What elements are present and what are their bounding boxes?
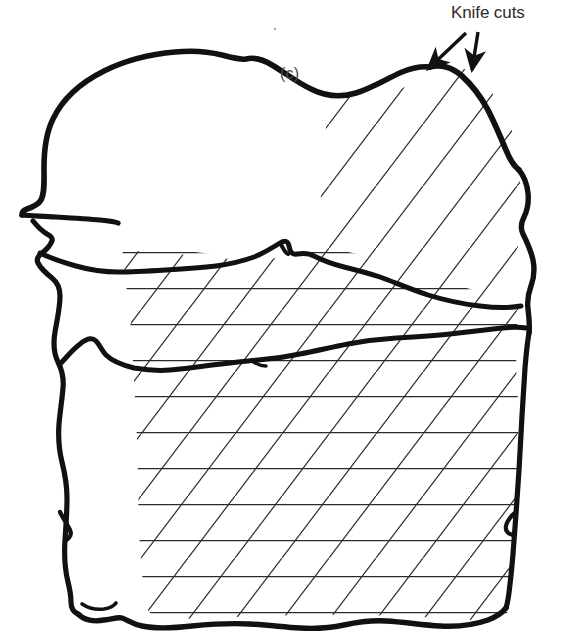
figure-container: (c) Knife cuts	[0, 0, 565, 642]
bone-outline-right-margin-upper	[519, 170, 534, 333]
knife-cut-arrow-right	[472, 32, 478, 70]
bone-outline-left-margin	[33, 221, 78, 614]
knife-cuts-annotation-label: Knife cuts	[451, 3, 525, 23]
bone-fragment-drawing	[0, 0, 565, 642]
knife-cut-arrow-left	[428, 33, 466, 69]
panel-label: (c)	[280, 65, 299, 83]
bone-outline-bottom-left-hook	[82, 603, 116, 609]
scan-speck	[274, 28, 276, 30]
